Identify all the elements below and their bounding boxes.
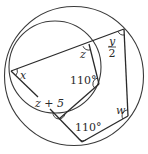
geometry-diagram: x z y 2 110° z + 5 110° w	[0, 0, 148, 154]
label-z: z	[79, 48, 86, 61]
label-110-inner: 110°	[70, 74, 97, 87]
label-110-bottom: 110°	[75, 121, 102, 134]
diagram-canvas: x z y 2 110° z + 5 110° w	[0, 0, 148, 154]
label-z-plus-5: z + 5	[34, 97, 64, 110]
label-w: w	[116, 104, 126, 117]
label-y-denominator: 2	[109, 47, 116, 60]
segment-top-right-to-right	[124, 29, 128, 116]
segment-left-to-top-right	[11, 29, 124, 71]
angle-arc-y2	[118, 31, 124, 35]
label-x: x	[20, 69, 27, 82]
segment-inner-to-z5	[59, 84, 99, 119]
